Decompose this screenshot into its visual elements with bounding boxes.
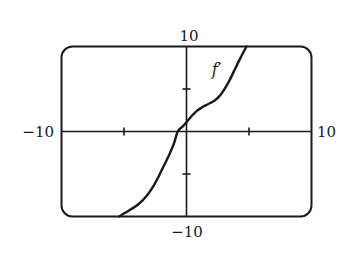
y-max-label: 10 [179,27,198,45]
x-max-label: 10 [317,123,336,141]
chart-svg: 10 −10 −10 10 f′ [0,0,346,254]
y-min-label: −10 [171,223,203,241]
series-label-f-prime: f′ [211,60,222,79]
x-min-label: −10 [22,123,54,141]
